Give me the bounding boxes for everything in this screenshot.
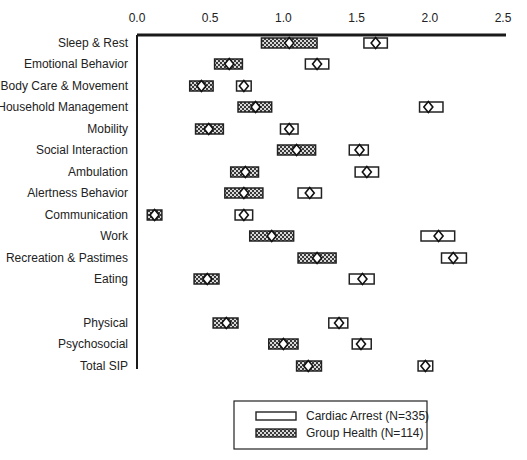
series-cardiac-arrest bbox=[235, 38, 466, 372]
category-label: Body Care & Movement bbox=[1, 79, 129, 93]
category-label: Work bbox=[100, 229, 129, 243]
category-label: Ambulation bbox=[68, 165, 128, 179]
plot-area bbox=[147, 38, 466, 372]
category-label: Social Interaction bbox=[36, 143, 128, 157]
x-tick-label: 1.0 bbox=[275, 11, 292, 25]
category-label: Recreation & Pastimes bbox=[6, 251, 128, 265]
x-tick-label: 0.5 bbox=[202, 11, 219, 25]
category-label: Mobility bbox=[87, 122, 128, 136]
category-label: Total SIP bbox=[80, 359, 128, 373]
y-axis: Sleep & RestEmotional BehaviorBody Care … bbox=[0, 35, 137, 373]
legend-swatch-group-health bbox=[256, 429, 296, 437]
x-tick-label: 1.5 bbox=[348, 11, 365, 25]
legend-label-group-health: Group Health (N=114) bbox=[306, 426, 424, 440]
category-label: Communication bbox=[45, 208, 128, 222]
x-tick-label: 0.0 bbox=[129, 11, 146, 25]
x-axis: 0.00.51.01.52.02.5 bbox=[129, 11, 512, 35]
legend-swatch-cardiac-arrest bbox=[256, 412, 296, 420]
legend: Cardiac Arrest (N=335) Group Health (N=1… bbox=[234, 401, 429, 449]
category-label: Alertness Behavior bbox=[27, 186, 128, 200]
category-label: Eating bbox=[94, 272, 128, 286]
category-label: Emotional Behavior bbox=[24, 57, 128, 71]
category-label: Household Management bbox=[0, 100, 129, 114]
legend-label-cardiac-arrest: Cardiac Arrest (N=335) bbox=[306, 409, 429, 423]
interval-chart: 0.00.51.01.52.02.5 Sleep & RestEmotional… bbox=[0, 0, 527, 460]
category-label: Physical bbox=[83, 316, 128, 330]
x-tick-label: 2.5 bbox=[495, 11, 512, 25]
category-label: Sleep & Rest bbox=[58, 36, 129, 50]
category-label: Psychosocial bbox=[58, 337, 128, 351]
x-tick-label: 2.0 bbox=[421, 11, 438, 25]
